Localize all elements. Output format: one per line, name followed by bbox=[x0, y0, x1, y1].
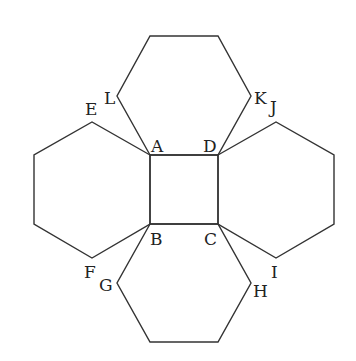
square-abcd bbox=[150, 155, 218, 224]
vertex-label-a: A bbox=[150, 136, 164, 156]
shapes-group bbox=[34, 36, 334, 342]
vertex-label-h: H bbox=[253, 281, 268, 301]
vertex-label-l: L bbox=[104, 88, 115, 108]
hexagon-right bbox=[218, 122, 334, 258]
geometry-diagram: ADBCELKJFGHI bbox=[0, 0, 356, 361]
vertex-label-e: E bbox=[85, 99, 97, 119]
vertex-label-g: G bbox=[99, 275, 113, 295]
hexagon-left bbox=[34, 122, 150, 258]
vertex-labels-group: ADBCELKJFGHI bbox=[84, 88, 278, 301]
vertex-label-f: F bbox=[84, 262, 96, 282]
vertex-label-k: K bbox=[254, 88, 267, 108]
vertex-label-d: D bbox=[203, 136, 217, 156]
vertex-label-b: B bbox=[150, 229, 163, 249]
hexagon-top bbox=[117, 36, 251, 155]
hexagon-bottom bbox=[117, 224, 251, 342]
vertex-label-j: J bbox=[268, 97, 277, 117]
vertex-label-c: C bbox=[204, 229, 217, 249]
vertex-label-i: I bbox=[271, 262, 278, 282]
